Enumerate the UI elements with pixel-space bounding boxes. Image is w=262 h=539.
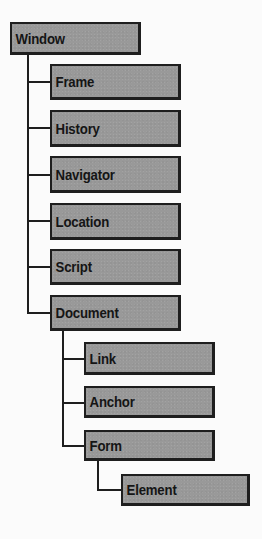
connector-window-location: [27, 220, 50, 222]
node-label-navigator: Navigator: [52, 166, 115, 183]
connector-form-trunk: [97, 461, 99, 491]
connector-document-trunk: [62, 331, 64, 447]
node-form: Form: [84, 430, 215, 461]
node-label-anchor: Anchor: [86, 393, 135, 410]
node-window: Window: [10, 22, 141, 55]
node-script: Script: [50, 249, 181, 285]
node-label-link: Link: [86, 350, 116, 367]
node-label-history: History: [52, 120, 100, 137]
node-history: History: [50, 110, 181, 147]
object-hierarchy-diagram: Window Frame History Navigator Location …: [0, 0, 262, 539]
node-link: Link: [84, 342, 215, 375]
connector-form-element: [97, 489, 121, 491]
connector-window-frame: [27, 81, 50, 83]
node-element: Element: [121, 474, 250, 506]
node-label-element: Element: [123, 481, 177, 498]
connector-document-form: [62, 445, 84, 447]
connector-window-trunk: [27, 54, 29, 313]
node-label-script: Script: [52, 258, 92, 275]
node-label-frame: Frame: [52, 73, 94, 90]
connector-window-navigator: [27, 174, 50, 176]
node-anchor: Anchor: [84, 386, 215, 418]
node-document: Document: [50, 295, 181, 331]
node-label-form: Form: [86, 437, 122, 454]
node-frame: Frame: [50, 64, 181, 100]
node-location: Location: [50, 203, 181, 240]
connector-document-anchor: [62, 402, 84, 404]
node-label-location: Location: [52, 213, 109, 230]
connector-window-script: [27, 266, 50, 268]
connector-window-document: [27, 312, 50, 314]
node-label-document: Document: [52, 304, 119, 321]
connector-window-history: [27, 127, 50, 129]
node-label-window: Window: [12, 30, 65, 47]
connector-document-link: [62, 358, 84, 360]
node-navigator: Navigator: [50, 156, 181, 193]
